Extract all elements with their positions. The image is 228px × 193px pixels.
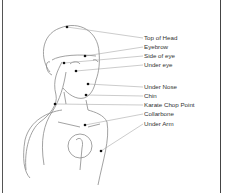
label-under-eye: Under eye	[144, 61, 173, 68]
body-figure-illustration	[0, 0, 228, 193]
figure-outline	[24, 25, 108, 185]
label-top-of-head: Top of Head	[144, 34, 177, 41]
label-under-nose: Under Nose	[144, 83, 177, 90]
label-chin: Chin	[144, 92, 157, 99]
tapping-point-dots	[54, 26, 103, 153]
label-under-arm: Under Arm	[144, 120, 174, 127]
leader-lines	[55, 27, 143, 151]
label-side-of-eye: Side of eye	[144, 52, 175, 59]
label-karate-chop-point: Karate Chop Point	[144, 101, 195, 108]
label-eyebrow: Eyebrow	[144, 43, 168, 50]
label-collarbone: Collarbone	[144, 110, 174, 117]
